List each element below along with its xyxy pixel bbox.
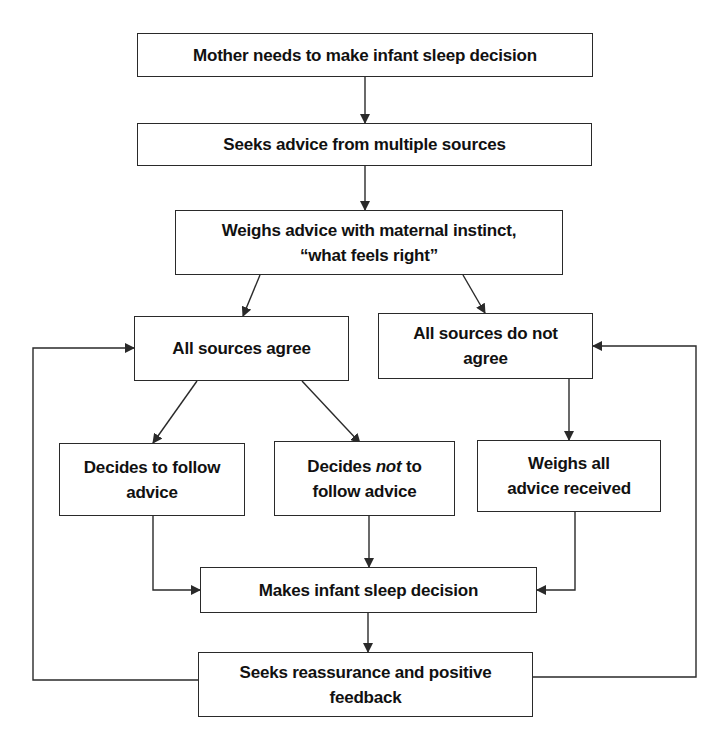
node-decides-follow: Decides to follow advice: [59, 443, 245, 516]
arrow-n3-n4: [243, 275, 260, 316]
flowchart-canvas: Mother needs to make infant sleep decisi…: [0, 0, 719, 745]
node-text-line2: advice: [126, 480, 178, 505]
node-text-line1: Decides to follow: [84, 455, 220, 480]
node-text-line1: Seeks reassurance and positive: [240, 660, 492, 685]
arrow-n8-n9: [537, 512, 575, 590]
arrow-n4-n7: [302, 381, 360, 443]
arrow-n3-n5: [463, 275, 485, 313]
node-weighs-advice-instinct: Weighs advice with maternal instinct, “w…: [175, 210, 563, 275]
text-pre: Decides: [307, 457, 375, 476]
node-text: Mother needs to make infant sleep decisi…: [193, 43, 537, 68]
node-weighs-all-advice: Weighs all advice received: [477, 440, 661, 512]
arrow-n4-n6: [153, 381, 197, 443]
node-text-line2: “what feels right”: [300, 243, 438, 268]
node-sources-not-agree: All sources do not agree: [378, 313, 593, 379]
node-makes-decision: Makes infant sleep decision: [200, 567, 537, 613]
node-text-line2: follow advice: [312, 479, 416, 504]
arrow-n6-n9: [153, 516, 200, 590]
node-seeks-advice: Seeks advice from multiple sources: [137, 123, 592, 166]
node-text-line2: feedback: [329, 685, 401, 710]
text-post: to: [402, 457, 422, 476]
node-text: Seeks advice from multiple sources: [223, 132, 505, 157]
connector-layer: [0, 0, 719, 745]
text-emphasis: not: [376, 457, 402, 476]
node-mother-needs-decision: Mother needs to make infant sleep decisi…: [137, 33, 593, 77]
node-all-sources-agree: All sources agree: [134, 316, 349, 381]
node-text-line1: All sources do not: [413, 321, 558, 346]
node-text: Makes infant sleep decision: [259, 578, 478, 603]
node-seeks-reassurance: Seeks reassurance and positive feedback: [198, 652, 533, 717]
node-text-line1: Decides not to: [307, 454, 421, 479]
node-text-line1: Weighs advice with maternal instinct,: [222, 218, 517, 243]
node-decides-not-follow: Decides not to follow advice: [274, 441, 455, 516]
node-text-line1: Weighs all: [528, 451, 610, 476]
node-text-line2: agree: [463, 346, 507, 371]
node-text-line2: advice received: [507, 476, 631, 501]
node-text: All sources agree: [172, 336, 310, 361]
